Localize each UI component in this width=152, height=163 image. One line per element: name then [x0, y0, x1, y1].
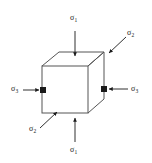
sigma-subscript: 1 [75, 149, 78, 155]
sigma-symbol: σ [11, 84, 15, 93]
sigma-subscript: 2 [132, 32, 135, 38]
sigma-subscript: 2 [34, 128, 37, 134]
sigma-subscript: 3 [136, 88, 139, 94]
cube-right-face [88, 52, 104, 113]
stress-arrows [23, 31, 128, 142]
sigma-symbol: σ [29, 124, 33, 133]
cube-wireframe [42, 52, 104, 113]
label-sigma1-top: σ1 [70, 14, 77, 22]
cube-top-face [42, 52, 104, 66]
label-sigma3-right: σ3 [131, 85, 138, 93]
sigma-subscript: 3 [16, 88, 19, 94]
label-sigma2-front: σ2 [29, 125, 36, 133]
right-face-center-marker [101, 86, 107, 92]
label-sigma2-back: σ2 [127, 29, 134, 37]
sigma2-front-arrow [40, 112, 57, 128]
face-center-markers [40, 86, 107, 93]
stress-element-figure: σ1 σ1 σ3 σ3 σ2 σ2 [0, 0, 152, 163]
sigma-symbol: σ [127, 28, 131, 37]
label-sigma3-left: σ3 [11, 85, 18, 93]
sigma-symbol: σ [70, 145, 74, 154]
left-face-center-marker [40, 87, 46, 93]
sigma2-back-arrow [109, 37, 126, 53]
cube-front-face [42, 66, 88, 113]
sigma-symbol: σ [70, 13, 74, 22]
sigma-subscript: 1 [75, 17, 78, 23]
label-sigma1-bottom: σ1 [70, 146, 77, 154]
stress-cube-drawing [0, 0, 152, 163]
sigma-symbol: σ [131, 84, 135, 93]
